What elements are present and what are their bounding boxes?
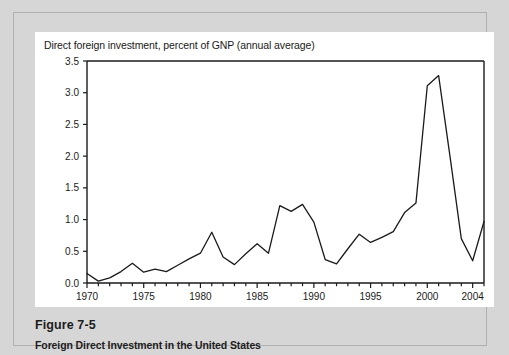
figure-number: Figure 7-5 <box>35 318 465 332</box>
svg-text:1975: 1975 <box>133 291 156 302</box>
line-chart-svg: 0.00.51.01.52.02.53.03.5 197019751980198… <box>35 32 494 307</box>
svg-text:2.5: 2.5 <box>65 119 79 130</box>
svg-text:1995: 1995 <box>359 291 382 302</box>
x-axis-tick-labels: 19701975198019851990199520002004 <box>76 291 484 302</box>
svg-text:2.0: 2.0 <box>65 151 79 162</box>
svg-text:2004: 2004 <box>462 291 485 302</box>
svg-text:0.0: 0.0 <box>65 278 79 289</box>
x-axis-tick-marks <box>87 283 484 288</box>
plot-area: 0.00.51.01.52.02.53.03.5 197019751980198… <box>35 32 494 307</box>
svg-text:2000: 2000 <box>416 291 439 302</box>
svg-text:1.0: 1.0 <box>65 214 79 225</box>
svg-text:1.5: 1.5 <box>65 182 79 193</box>
figure-caption: Foreign Direct Investment in the United … <box>35 339 465 351</box>
svg-text:1990: 1990 <box>303 291 326 302</box>
svg-text:3.5: 3.5 <box>65 56 79 67</box>
figure-caption-block: Figure 7-5 Foreign Direct Investment in … <box>35 318 465 351</box>
figure-outer-frame: Direct foreign investment, percent of GN… <box>13 12 487 346</box>
svg-text:3.0: 3.0 <box>65 87 79 98</box>
svg-text:1980: 1980 <box>189 291 212 302</box>
svg-text:1985: 1985 <box>246 291 269 302</box>
y-axis-tick-labels: 0.00.51.01.52.02.53.03.5 <box>65 56 79 289</box>
chart-panel: Direct foreign investment, percent of GN… <box>35 32 494 307</box>
svg-text:0.5: 0.5 <box>65 246 79 257</box>
svg-text:1970: 1970 <box>76 291 99 302</box>
investment-series-line <box>87 76 484 282</box>
